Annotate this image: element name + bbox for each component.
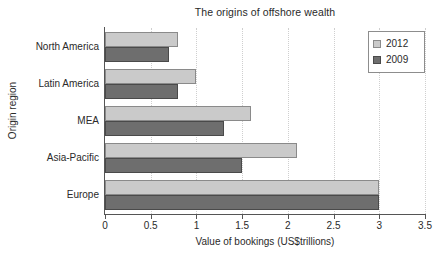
y-axis-title: Origin region bbox=[7, 61, 18, 161]
x-tick-mark bbox=[105, 215, 106, 219]
y-tick-label: MEA bbox=[77, 115, 99, 126]
x-tick-label: 0.5 bbox=[144, 220, 158, 231]
x-tick-label: 1 bbox=[194, 220, 200, 231]
bar-2012 bbox=[105, 143, 297, 158]
x-tick-label: 1.5 bbox=[235, 220, 249, 231]
x-tick-label: 3.5 bbox=[418, 220, 432, 231]
x-tick-mark bbox=[288, 215, 289, 219]
x-tick-label: 2 bbox=[285, 220, 291, 231]
bar-2009 bbox=[105, 158, 242, 173]
bar-2009 bbox=[105, 121, 224, 136]
y-tick-label: North America bbox=[36, 41, 99, 52]
x-tick-label: 3 bbox=[377, 220, 383, 231]
x-tick-mark bbox=[334, 215, 335, 219]
bar-2012 bbox=[105, 106, 251, 121]
y-tick-label: Europe bbox=[67, 189, 99, 200]
gridline bbox=[425, 28, 426, 214]
legend-item-2012[interactable]: 2012 bbox=[373, 36, 420, 51]
bar-group bbox=[105, 69, 425, 99]
chart-title: The origins of offshore wealth bbox=[105, 6, 425, 18]
legend-item-2009[interactable]: 2009 bbox=[373, 52, 420, 67]
x-axis-title: Value of bookings (US$trillions) bbox=[105, 236, 425, 247]
x-tick-mark bbox=[242, 215, 243, 219]
bar-2012 bbox=[105, 69, 196, 84]
x-tick-mark bbox=[151, 215, 152, 219]
bar-2012 bbox=[105, 180, 379, 195]
x-tick-label: 2.5 bbox=[327, 220, 341, 231]
legend-swatch-icon bbox=[373, 56, 381, 64]
legend-label: 2012 bbox=[386, 39, 408, 49]
bar-chart: The origins of offshore wealth 00.511.52… bbox=[0, 0, 447, 268]
x-tick-mark bbox=[196, 215, 197, 219]
bar-2009 bbox=[105, 195, 379, 210]
x-axis-line bbox=[104, 214, 426, 215]
bar-2012 bbox=[105, 32, 178, 47]
bar-2009 bbox=[105, 47, 169, 62]
y-tick-label: Asia-Pacific bbox=[47, 152, 99, 163]
y-tick-label: Latin America bbox=[38, 78, 99, 89]
legend-label: 2009 bbox=[386, 55, 408, 65]
bar-group bbox=[105, 180, 425, 210]
bar-2009 bbox=[105, 84, 178, 99]
bar-group bbox=[105, 106, 425, 136]
x-tick-mark bbox=[379, 215, 380, 219]
x-tick-label: 0 bbox=[102, 220, 108, 231]
x-tick-mark bbox=[425, 215, 426, 219]
legend-swatch-icon bbox=[373, 40, 381, 48]
chart-legend: 20122009 bbox=[368, 31, 425, 73]
bar-group bbox=[105, 143, 425, 173]
